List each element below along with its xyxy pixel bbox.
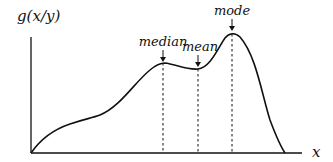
distribution-diagram: g(x/y) x median mean mode [0,0,333,162]
mean-label: mean [182,39,218,54]
mode-label: mode [214,3,250,18]
x-axis-label: x [312,143,321,161]
density-curve [31,34,285,153]
arrow-down-icon [160,57,166,62]
arrow-down-icon [195,62,201,67]
median-marker [160,50,166,153]
median-label: median [139,34,188,49]
mode-marker [229,19,235,153]
arrow-down-icon [229,26,235,31]
y-axis-label: g(x/y) [17,7,60,25]
